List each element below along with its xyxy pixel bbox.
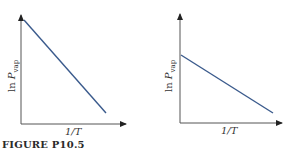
figure-caption: FIGURE P10.5 bbox=[2, 139, 85, 150]
right-x-axis-label: 1/T bbox=[221, 125, 237, 136]
left-data-line bbox=[24, 20, 106, 113]
left-x-axis-label: 1/T bbox=[65, 126, 81, 137]
figure-canvas bbox=[0, 0, 287, 159]
right-data-line bbox=[181, 55, 273, 113]
left-y-axis-label: ln Pvap bbox=[6, 60, 20, 92]
left-plot bbox=[21, 15, 126, 124]
right-plot bbox=[180, 14, 282, 123]
right-y-axis-label: ln Pvap bbox=[163, 60, 177, 92]
